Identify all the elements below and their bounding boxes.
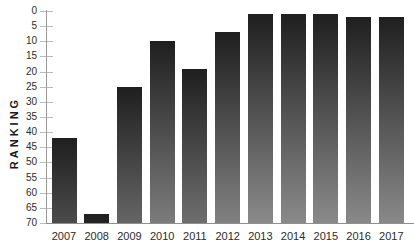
y-tick-label: 5 [11,20,37,32]
y-tick-label: 50 [11,156,37,168]
bar-2016 [346,17,371,223]
x-axis-line [46,223,414,224]
bar-2011 [182,69,207,223]
y-tick-label: 60 [11,187,37,199]
bar-2014 [281,14,306,223]
y-tick-label: 45 [11,141,37,153]
bar-2010 [150,41,175,223]
bar-2009 [117,87,142,223]
y-axis-line [46,10,47,223]
y-tick-label: 0 [11,5,37,17]
y-tick-label: 70 [11,217,37,229]
bar-2017 [379,17,404,223]
y-tick-label: 25 [11,81,37,93]
y-tick-label: 35 [11,111,37,123]
bar-2013 [248,14,273,223]
y-tick-label: 65 [11,202,37,214]
x-tick-label: 2017 [371,230,411,242]
ranking-bar-chart: RANKING 0510152025303540455055606570 200… [0,0,414,247]
y-tick-label: 40 [11,126,37,138]
bar-2008 [84,214,109,223]
y-tick-label: 15 [11,50,37,62]
y-tick-label: 55 [11,172,37,184]
y-tick-label: 20 [11,66,37,78]
y-tick-label: 30 [11,96,37,108]
bar-2007 [52,138,77,223]
bar-2015 [313,14,338,223]
bar-2012 [215,32,240,223]
y-tick-label: 10 [11,35,37,47]
